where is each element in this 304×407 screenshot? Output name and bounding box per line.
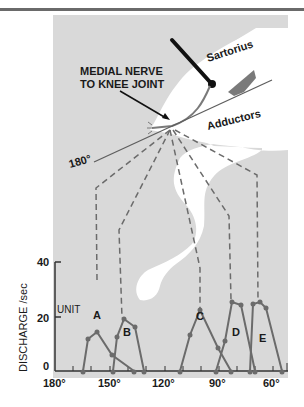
series-e-label: E [259,332,266,344]
x-tick-90: 90° [209,377,226,389]
y-axis-label: DISCHARGE /sec [17,283,29,372]
series-a-label: A [93,309,101,321]
nerve-label-line2: TO KNEE JOINT [80,78,164,90]
x-tick-120: 120° [152,377,175,389]
y-tick-20: 20 [37,312,49,324]
knee-nerve-figure: MEDIAL NERVE TO KNEE JOINT Sartorius Add… [0,0,304,407]
series-b-label: B [123,326,131,338]
x-tick-150: 150° [98,377,121,389]
nerve-label-line1: MEDIAL NERVE [80,65,163,77]
y-tick-0: 0 [43,360,49,372]
x-tick-180: 180° [43,377,66,389]
x-tick-60: 60° [263,377,280,389]
y-tick-40: 40 [37,256,49,268]
series-d-label: D [232,326,240,338]
unit-label: UNIT [57,304,80,315]
series-c-label: C [196,310,204,322]
